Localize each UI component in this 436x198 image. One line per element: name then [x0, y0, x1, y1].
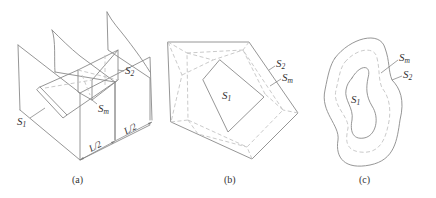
leader-s1-a: [30, 108, 45, 118]
label-sm-c: Sm: [399, 51, 411, 65]
label-s1-b: S1: [222, 89, 231, 103]
figure-canvas: L/2 L/2 S1 Sm S2 (a) S1: [0, 0, 436, 198]
dimension-l-half-2: L/2: [115, 121, 152, 141]
figure-svg: L/2 L/2 S1 Sm S2 (a) S1: [0, 0, 436, 198]
svg-text:L/2: L/2: [86, 139, 103, 154]
polygon-sm-dashed: [187, 50, 283, 147]
label-s1-a: S1: [17, 115, 26, 129]
panel-a: L/2 L/2 S1 Sm S2 (a): [17, 12, 152, 186]
leader-s2-b: [269, 66, 275, 70]
leader-s2-a: [118, 70, 124, 71]
leader-s2-c: [392, 76, 402, 80]
panel-c: S1 Sm S2 (c): [324, 38, 412, 186]
polygon-s1: [203, 60, 264, 132]
hidden-lines-a: [45, 55, 118, 95]
label-sm-a: Sm: [98, 102, 110, 116]
caption-b: (b): [224, 174, 236, 186]
label-sm-b: Sm: [282, 71, 294, 85]
label-s2-c: S2: [403, 68, 413, 82]
caption-c: (c): [359, 174, 370, 186]
panel-b: S1 S2 Sm (b): [168, 42, 298, 186]
caption-a: (a): [72, 174, 83, 186]
dimension-l-half-1: L/2: [80, 139, 115, 160]
label-s2-b: S2: [276, 57, 286, 71]
contour-s2: [324, 38, 402, 166]
svg-text:L/2: L/2: [121, 121, 138, 136]
contour-sm: [335, 50, 389, 152]
leader-sm-a: [92, 100, 97, 104]
label-s1-c: S1: [351, 93, 360, 107]
